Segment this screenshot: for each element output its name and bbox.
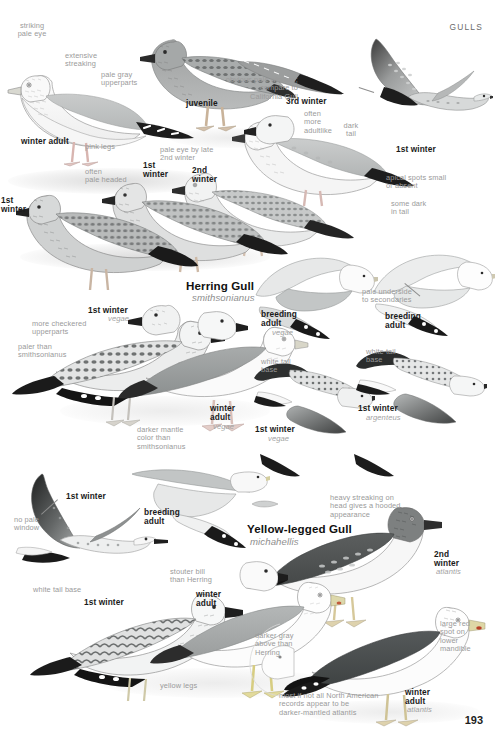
plate-label-first-winter-flight-low: 1st winter	[66, 492, 106, 501]
plate-label-no-pale-window: no pale window	[14, 516, 39, 533]
plate-label-breeding-adult-ylg: breeding adult	[144, 508, 180, 527]
bird-wingtip-small-2	[352, 452, 398, 480]
plate-label-winter-adult-vegae: winter adult	[210, 404, 235, 423]
bird-head-small-3	[240, 554, 288, 594]
field-guide-page: GULLS	[0, 0, 495, 740]
bird-breeding-adult-vegae-flight	[248, 255, 378, 345]
plate-label-extensive-streaking: extensive streaking	[65, 52, 97, 69]
plate-label-vegae-d: vegae	[268, 435, 289, 444]
plate-label-darker-gray-above: darker gray above than Herring	[255, 632, 293, 657]
plate-label-pink-legs: pink legs	[85, 143, 115, 151]
plate-label-breeding-adult-argenteus: breeding adult	[385, 312, 421, 331]
bird-head-small-2	[200, 306, 248, 342]
species-sci-smithsonianus: smithsonianus	[192, 293, 255, 304]
plate-label-paler-than-smith: paler than smithsonianus	[18, 343, 67, 360]
page-header-title: GULLS	[450, 22, 483, 32]
page-number: 193	[465, 714, 483, 726]
plate-label-yellow-legs: yellow legs	[160, 682, 197, 690]
plate-label-vegae-a: vegae	[108, 315, 129, 324]
plate-label-pale-gray-upperparts: pale gray upperparts	[101, 71, 137, 88]
plate-label-obvious-pale-window: obvious pale window; compare to Californ…	[226, 76, 298, 101]
plate-label-atlantis-b: atlantis	[407, 706, 432, 715]
plate-label-first-winter-ylg: 1st winter	[84, 598, 124, 607]
bird-head-small-5	[248, 496, 282, 514]
plate-label-argenteus: argenteus	[366, 414, 401, 423]
plate-label-vegae-b: vegae	[213, 423, 234, 432]
plate-label-white-tail-base-a: white tail base	[261, 358, 291, 375]
plate-label-juvenile: juvenile	[186, 99, 218, 108]
plate-label-first-winter-argenteus: 1st winter	[358, 404, 398, 413]
species-sci-michahellis: michahellis	[250, 537, 299, 548]
plate-label-apical-spots: apical spots small or absent	[386, 174, 446, 191]
bird-1st-winter-standing-farleft	[18, 182, 198, 292]
species-name-yellow-legged-gull: Yellow-legged Gull	[247, 522, 352, 535]
species-name-herring-gull: Herring Gull	[186, 279, 254, 292]
plate-label-second-winter-b: 2nd winter	[192, 166, 217, 185]
plate-label-darker-mantle-color: darker mantle color than smithsonianus	[137, 426, 186, 451]
plate-label-some-dark-in-tail: some dark in tail	[391, 200, 426, 217]
bird-head-small-1	[246, 110, 296, 146]
plate-label-striking-pale-eye: striking pale eye	[18, 22, 47, 39]
plate-label-large-red-spot: large red spot on lower mandible	[440, 620, 471, 653]
plate-label-first-winter-b: 1st winter	[143, 161, 168, 180]
plate-label-white-tail-base-b: white tail base	[366, 348, 396, 365]
plate-label-pale-underside-sec: pale underside to secondaries	[362, 288, 412, 305]
plate-label-dark-tail: dark tail	[344, 122, 359, 139]
plate-label-winter-adult-1: winter adult	[21, 137, 69, 146]
plate-label-winter-adult-atlantis: winter adult	[405, 688, 430, 707]
plate-label-first-winter-vegae-b: 1st winter	[255, 425, 295, 434]
plate-label-often-pale-headed: often pale headed	[85, 168, 127, 185]
plate-label-first-winter-left: 1st winter	[1, 196, 26, 215]
plate-label-winter-adult-ylg-a: winter adult	[196, 590, 221, 609]
plate-label-more-checkered: more checkered upperparts	[32, 320, 86, 337]
plate-label-atlantis-a: atlantis	[436, 568, 461, 577]
plate-label-white-tail-base-c: white tail base	[33, 586, 81, 594]
plate-label-breeding-adult-vegae: breeding adult	[261, 310, 297, 329]
plate-label-most-if-not-all: most if not all North American records a…	[279, 692, 379, 717]
plate-label-vegae-c: vegae	[272, 329, 293, 338]
plate-label-first-winter-flight-top: 1st winter	[396, 145, 436, 154]
bird-wingtip-small-1	[258, 452, 304, 480]
plate-label-often-more-adultlike: often more adultlike	[304, 110, 332, 135]
plate-label-heavy-streaking-head: heavy streaking on head gives a hooded a…	[330, 494, 401, 519]
plate-label-stouter-bill: stouter bill than Herring	[170, 568, 212, 585]
plate-label-second-winter-atlantis: 2nd winter	[434, 550, 459, 569]
